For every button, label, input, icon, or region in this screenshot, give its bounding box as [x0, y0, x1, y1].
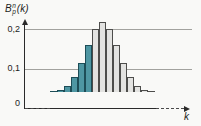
y-axis-line [24, 24, 25, 109]
bar-k-3 [50, 91, 57, 92]
bar-k-11 [106, 29, 113, 92]
bar-k-14 [127, 77, 134, 92]
bar-k-13 [120, 63, 127, 92]
bar-k-7 [78, 63, 85, 92]
bar-k-6 [71, 77, 78, 92]
bar-k-10 [99, 22, 106, 92]
bar-k-12 [113, 45, 120, 92]
bar-k-15 [134, 86, 141, 92]
bar-k-17 [148, 91, 155, 92]
bar-k-16 [141, 90, 148, 92]
x-axis-dashed-left-segment [25, 108, 50, 109]
plot-area [0, 0, 201, 109]
y-axis-arrow-icon [22, 19, 28, 25]
x-axis-label: k [184, 111, 189, 122]
binomial-distribution-chart: Bnp(k) 0,2 0,1 0 k [0, 0, 201, 126]
bar-k-5 [64, 86, 71, 92]
x-axis-dashed-right-segment [156, 108, 184, 109]
bar-k-8 [85, 45, 92, 92]
bar-k-9 [92, 29, 99, 92]
bar-k-4 [57, 90, 64, 92]
